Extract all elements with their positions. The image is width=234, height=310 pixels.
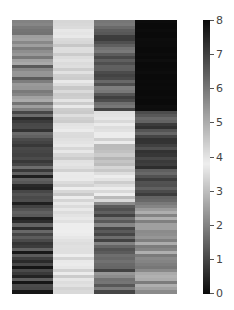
heatmap-plot bbox=[12, 20, 177, 294]
colorbar bbox=[203, 20, 210, 294]
colorbar-tick-label: 4 bbox=[216, 152, 223, 163]
colorbar-tick bbox=[210, 157, 214, 158]
colorbar-tick-label: 5 bbox=[216, 117, 223, 128]
colorbar-tick bbox=[210, 225, 214, 226]
colorbar-tick-label: 8 bbox=[216, 15, 223, 26]
colorbar-tick-label: 1 bbox=[216, 254, 223, 265]
colorbar-tick-label: 0 bbox=[216, 288, 223, 299]
colorbar-tick bbox=[210, 191, 214, 192]
colorbar-tick-label: 2 bbox=[216, 220, 223, 231]
colorbar-tick bbox=[210, 259, 214, 260]
colorbar-tick-label: 3 bbox=[216, 186, 223, 197]
colorbar-tick bbox=[210, 20, 214, 21]
colorbar-tick bbox=[210, 122, 214, 123]
colorbar-tick bbox=[210, 88, 214, 89]
colorbar-tick-label: 6 bbox=[216, 83, 223, 94]
colorbar-tick bbox=[210, 293, 214, 294]
colorbar-tick-label: 7 bbox=[216, 49, 223, 60]
colorbar-tick bbox=[210, 54, 214, 55]
